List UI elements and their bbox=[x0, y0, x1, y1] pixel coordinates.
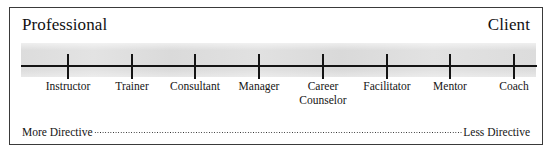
scale-label-line2: Counselor bbox=[275, 94, 371, 108]
directive-label-less: Less Directive bbox=[463, 124, 530, 140]
directive-label-more: More Directive bbox=[22, 124, 93, 140]
directive-row: More Directive Less Directive bbox=[22, 120, 530, 138]
tick-mark bbox=[449, 54, 451, 79]
endpoint-label-professional: Professional bbox=[22, 10, 107, 40]
scale-label-group: InstructorTrainerConsultantManagerCareer… bbox=[10, 80, 542, 116]
tick-mark bbox=[386, 54, 388, 79]
endpoint-label-client: Client bbox=[488, 10, 530, 40]
endpoint-row: Professional Client bbox=[10, 8, 542, 42]
tick-mark bbox=[131, 54, 133, 79]
continuum-figure: Professional Client InstructorTrainerCon… bbox=[9, 7, 543, 145]
scale-label-coach: Coach bbox=[466, 80, 552, 94]
tick-mark bbox=[513, 54, 515, 79]
scale-label-line1: Coach bbox=[499, 80, 528, 92]
tick-mark bbox=[258, 54, 260, 79]
tick-mark bbox=[194, 54, 196, 79]
tick-mark bbox=[67, 54, 69, 79]
scale-band bbox=[21, 43, 536, 77]
scale-label-line1: Trainer bbox=[115, 80, 148, 92]
tick-mark bbox=[322, 54, 324, 79]
dotted-leader bbox=[94, 120, 463, 136]
scale-label-line1: Career bbox=[308, 80, 339, 92]
axis-line bbox=[21, 65, 537, 67]
scale-label-line1: Mentor bbox=[433, 80, 467, 92]
scale-label-line1: Manager bbox=[239, 80, 280, 92]
